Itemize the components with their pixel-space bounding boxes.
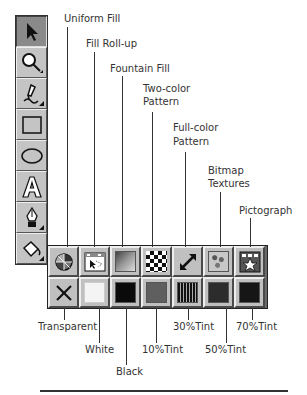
leader-line (185, 152, 186, 247)
label-two-color-1: Two-color (143, 82, 190, 95)
label-bitmap-2: Textures (208, 177, 250, 190)
flyout-indicator-icon (39, 101, 44, 106)
rectangle-tool[interactable] (16, 109, 47, 140)
leader-line (64, 308, 65, 320)
white-fill-button[interactable] (79, 277, 110, 308)
leader-line (94, 52, 95, 247)
double-arrow-icon (177, 251, 199, 273)
fountain-fill-button[interactable] (110, 246, 141, 277)
white-swatch (84, 282, 105, 303)
tint-30-button[interactable] (172, 277, 203, 308)
leader-line (67, 27, 68, 247)
tint-70-swatch (239, 282, 260, 303)
magnifier-icon (20, 51, 44, 75)
ellipse-tool[interactable] (16, 140, 47, 171)
pictograph-button[interactable] (234, 246, 265, 277)
label-two-color-2: Pattern (143, 95, 179, 108)
label-black: Black (116, 365, 143, 378)
tint-50-swatch (208, 282, 229, 303)
color-wheel-icon (54, 252, 74, 272)
label-transparent: Transparent (38, 320, 97, 333)
leader-line (220, 192, 221, 247)
leader-line (122, 76, 123, 247)
label-tint-30: 30%Tint (173, 320, 214, 333)
label-tint-70: 70%Tint (236, 320, 277, 333)
leader-line (99, 308, 100, 343)
leader-line (188, 308, 189, 320)
toolbox (15, 15, 48, 265)
label-uniform-fill: Uniform Fill (64, 12, 120, 25)
uniform-fill-button[interactable] (48, 246, 79, 277)
ellipse-icon (20, 147, 44, 165)
divider-rule (40, 390, 288, 392)
pencil-tool[interactable] (16, 78, 47, 109)
tint-30-swatch (177, 282, 198, 303)
texture-icon (208, 251, 229, 272)
checkerboard-icon (146, 251, 167, 272)
rollup-window-icon (84, 252, 106, 272)
transparent-fill-button[interactable] (48, 277, 79, 308)
label-full-color-1: Full-color (173, 121, 218, 134)
label-tint-10: 10%Tint (142, 343, 183, 356)
leader-line (252, 308, 253, 320)
label-pictograph: Pictograph (239, 204, 292, 217)
label-fountain-fill: Fountain Fill (110, 62, 170, 75)
arrow-pointer-icon (23, 21, 41, 43)
bitmap-textures-button[interactable] (203, 246, 234, 277)
outline-tool[interactable] (16, 202, 47, 233)
rectangle-icon (21, 115, 43, 135)
leader-line (126, 308, 127, 365)
flyout-indicator-icon (39, 256, 44, 261)
flyout-indicator-icon (39, 225, 44, 230)
black-swatch (115, 282, 136, 303)
leader-line (156, 308, 157, 343)
tint-70-button[interactable] (234, 277, 265, 308)
tint-10-swatch (146, 282, 167, 303)
fill-tool[interactable] (16, 233, 47, 264)
label-fill-rollup: Fill Roll-up (86, 37, 137, 50)
fill-rollup-button[interactable] (79, 246, 110, 277)
pictograph-star-icon (239, 251, 261, 273)
two-color-pattern-button[interactable] (141, 246, 172, 277)
pick-tool[interactable] (16, 16, 47, 47)
gradient-icon (115, 251, 136, 272)
letter-a-icon (20, 175, 44, 199)
leader-line (250, 218, 251, 247)
tint-10-button[interactable] (141, 277, 172, 308)
tint-50-button[interactable] (203, 277, 234, 308)
label-full-color-2: Pattern (173, 135, 209, 148)
full-color-pattern-button[interactable] (172, 246, 203, 277)
label-bitmap-1: Bitmap (208, 164, 244, 177)
zoom-tool[interactable] (16, 47, 47, 78)
fill-flyout (47, 245, 268, 309)
text-tool[interactable] (16, 171, 47, 202)
leader-line (152, 112, 153, 247)
label-white: White (85, 343, 114, 356)
label-tint-50: 50%Tint (205, 343, 246, 356)
black-fill-button[interactable] (110, 277, 141, 308)
x-icon (54, 283, 74, 303)
leader-line (226, 308, 227, 343)
